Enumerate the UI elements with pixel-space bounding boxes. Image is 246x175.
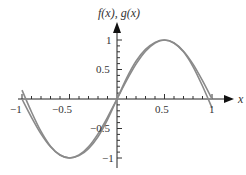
chart: x f(x), g(x) −1 −0.5 0.5 1 1 0.5 −0.5 −1 [0, 0, 246, 175]
y-tick-label: 1 [106, 34, 112, 46]
y-tick-label: −1 [102, 152, 114, 164]
x-axis-arrow-icon [224, 95, 234, 103]
x-axis-label: x [237, 92, 244, 106]
y-tick-label: −0.5 [90, 122, 110, 134]
x-tick-label: 1 [209, 103, 215, 115]
y-axis-label: f(x), g(x) [98, 6, 140, 20]
x-tick-label: 0.5 [155, 103, 169, 115]
x-tick-label: −1 [10, 103, 22, 115]
x-tick-label: −0.5 [52, 103, 72, 115]
y-axis-arrow-icon [113, 22, 121, 33]
y-tick-label: 0.5 [96, 63, 110, 75]
